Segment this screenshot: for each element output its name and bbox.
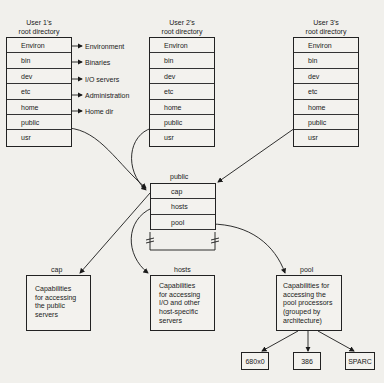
- dir-entry[interactable]: home: [7, 100, 71, 115]
- dir-entry[interactable]: bin: [294, 53, 358, 68]
- dir-entry[interactable]: bin: [7, 53, 71, 68]
- public-directory: cap hosts pool: [150, 183, 216, 230]
- dir-entry[interactable]: public: [294, 115, 358, 130]
- dir-entry[interactable]: etc: [150, 84, 214, 99]
- user3-title: User 3's root directory: [293, 19, 359, 36]
- hosts-box-title: hosts: [174, 265, 191, 274]
- public-entry-cap[interactable]: cap: [151, 184, 215, 199]
- hosts-capabilities-box: Capabilities for accessing I/O and other…: [150, 275, 215, 331]
- dir-entry[interactable]: usr: [294, 130, 358, 145]
- user1-root-directory: Environ bin dev etc home public usr: [6, 37, 72, 147]
- annotation-binaries: Binaries: [85, 58, 110, 67]
- public-dir-title: public: [170, 172, 188, 181]
- dir-entry[interactable]: usr: [150, 130, 214, 145]
- dir-entry[interactable]: dev: [7, 69, 71, 84]
- dir-entry[interactable]: dev: [150, 69, 214, 84]
- public-entry-pool[interactable]: pool: [151, 215, 215, 230]
- user3-root-directory: Environ bin dev etc home public usr: [293, 37, 359, 147]
- annotation-administration: Administration: [85, 91, 129, 100]
- user1-title: User 1's root directory: [6, 19, 72, 36]
- annotation-io-servers: I/O servers: [85, 75, 119, 84]
- pool-box-title: pool: [300, 265, 313, 274]
- dir-entry[interactable]: etc: [294, 84, 358, 99]
- dir-entry[interactable]: Environ: [150, 38, 214, 53]
- dir-entry[interactable]: public: [150, 115, 214, 130]
- dir-entry[interactable]: home: [294, 100, 358, 115]
- dir-entry[interactable]: Environ: [7, 38, 71, 53]
- arch-386-box: 386: [293, 352, 321, 370]
- public-entry-hosts[interactable]: hosts: [151, 199, 215, 214]
- annotation-environment: Environment: [85, 42, 124, 51]
- dir-entry[interactable]: bin: [150, 53, 214, 68]
- dir-entry[interactable]: dev: [294, 69, 358, 84]
- dir-entry[interactable]: home: [150, 100, 214, 115]
- pool-capabilities-box: Capabilities for accessing the pool proc…: [276, 275, 342, 331]
- dir-entry[interactable]: public: [7, 115, 71, 130]
- arch-sparc-box: SPARC: [345, 352, 375, 370]
- user2-root-directory: Environ bin dev etc home public usr: [149, 37, 215, 147]
- dir-entry[interactable]: usr: [7, 130, 71, 145]
- cap-box-title: cap: [51, 265, 62, 274]
- cap-capabilities-box: Capabilities for accessing the public se…: [26, 275, 91, 331]
- user2-title: User 2's root directory: [149, 19, 215, 36]
- dir-entry[interactable]: etc: [7, 84, 71, 99]
- arch-680x0-box: 680x0: [241, 352, 269, 370]
- dir-entry[interactable]: Environ: [294, 38, 358, 53]
- annotation-home-dir: Home dir: [85, 107, 113, 116]
